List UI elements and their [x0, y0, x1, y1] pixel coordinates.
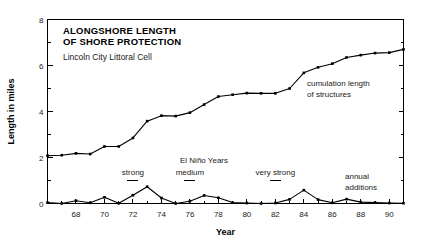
data-point-marker [260, 202, 263, 205]
data-point-marker [374, 52, 377, 55]
x-tick-label: 74 [157, 210, 166, 219]
data-point-marker [246, 202, 249, 205]
data-point-marker [260, 92, 263, 95]
annual-additions-label-line1: annual [345, 172, 369, 181]
data-point-marker [75, 152, 78, 155]
y-tick-label: 6 [39, 62, 44, 71]
data-point-marker [189, 111, 192, 114]
y-axis-title: Length in miles [6, 78, 16, 144]
data-point-marker [359, 201, 362, 204]
data-point-marker [402, 202, 405, 205]
data-point-marker [60, 154, 63, 157]
x-tick-label: 90 [385, 210, 394, 219]
data-point-marker [217, 95, 220, 98]
y-tick-label: 4 [39, 108, 44, 117]
data-point-marker [160, 114, 163, 117]
data-point-marker [132, 137, 135, 140]
data-point-marker [160, 197, 163, 200]
elnino-years-header: El Niño Years [180, 156, 228, 165]
data-point-marker [317, 198, 320, 201]
data-point-marker [132, 194, 135, 197]
x-tick-label: 78 [214, 210, 223, 219]
data-point-marker [174, 115, 177, 118]
cumulation-label-line1: cumulation length [307, 79, 370, 88]
data-point-marker [288, 198, 291, 201]
x-tick-label: 72 [128, 210, 137, 219]
data-point-marker [231, 201, 234, 204]
alongshore-length-chart: 02468 687072747678808284868890 Year Leng… [0, 0, 421, 246]
x-axis-title: Year [216, 227, 236, 237]
data-point-marker [317, 66, 320, 69]
x-tick-label: 80 [242, 210, 251, 219]
data-point-marker [246, 92, 249, 95]
data-point-marker [60, 202, 63, 205]
cumulation-label-line2: of structures [307, 90, 351, 99]
data-point-marker [117, 202, 120, 205]
data-point-marker [46, 201, 49, 204]
data-point-marker [345, 56, 348, 59]
chart-subtitle: Lincoln City Littoral Cell [63, 52, 152, 62]
data-point-marker [146, 120, 149, 123]
y-tick-label: 2 [39, 154, 44, 163]
elnino-event-label: strong [122, 168, 144, 177]
data-point-marker [46, 154, 49, 157]
data-point-marker [103, 196, 106, 199]
data-point-marker [89, 153, 92, 156]
data-point-marker [217, 196, 220, 199]
x-tick-label: 76 [185, 210, 194, 219]
data-point-marker [189, 200, 192, 203]
data-point-marker [89, 202, 92, 205]
data-point-marker [359, 54, 362, 57]
annual-additions-label-line2: additions [345, 183, 377, 192]
x-tick-label: 84 [299, 210, 308, 219]
data-point-marker [288, 87, 291, 90]
y-axis-tick-labels: 02468 [39, 16, 44, 209]
x-tick-label: 88 [356, 210, 365, 219]
data-point-marker [231, 93, 234, 96]
data-point-marker [274, 92, 277, 95]
x-tick-label: 68 [72, 210, 81, 219]
data-point-marker [146, 185, 149, 188]
data-point-marker [331, 62, 334, 65]
y-tick-label: 8 [39, 16, 44, 25]
data-point-marker [303, 189, 306, 192]
data-point-marker [75, 199, 78, 202]
x-axis-tick-labels: 687072747678808284868890 [72, 210, 395, 219]
data-point-marker [388, 202, 391, 205]
data-point-marker [274, 202, 277, 205]
series-cumulation [46, 48, 405, 157]
data-point-marker [174, 202, 177, 205]
data-point-marker [331, 202, 334, 205]
data-point-marker [402, 48, 405, 51]
elnino-event-markers: strongmediumvery strong [122, 168, 295, 181]
x-tick-label: 70 [100, 210, 109, 219]
chart-title-line2: OF SHORE PROTECTION [63, 36, 181, 47]
x-tick-label: 86 [328, 210, 337, 219]
data-point-marker [303, 72, 306, 75]
data-point-marker [388, 51, 391, 54]
chart-page: 02468 687072747678808284868890 Year Leng… [0, 0, 421, 246]
y-tick-label: 0 [39, 200, 44, 209]
elnino-event-label: medium [176, 168, 205, 177]
chart-title-line1: ALONGSHORE LENGTH [63, 25, 176, 36]
data-point-marker [374, 201, 377, 204]
data-point-marker [117, 145, 120, 148]
x-tick-label: 82 [271, 210, 280, 219]
elnino-event-label: very strong [256, 168, 296, 177]
data-point-marker [103, 145, 106, 148]
data-point-marker [203, 103, 206, 106]
data-point-marker [345, 198, 348, 201]
data-point-marker [203, 194, 206, 197]
